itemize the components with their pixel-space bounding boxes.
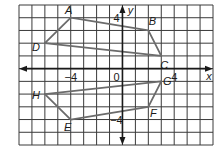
y-axis-arrow-up-icon — [119, 5, 125, 13]
vertex-label-a: A — [64, 4, 72, 16]
vertex-label-f: F — [150, 107, 158, 119]
origin-label: 0 — [113, 71, 119, 83]
vertex-label-c: C — [160, 59, 168, 71]
coordinate-grid-figure: xy−444−40ABCDEFGH — [0, 0, 221, 158]
vertex-label-d: D — [32, 41, 40, 53]
x-tick-label: −4 — [64, 71, 77, 83]
vertex-label-h: H — [32, 89, 40, 101]
polygon-abcd — [45, 18, 161, 56]
y-tick-label: −4 — [110, 114, 123, 126]
x-axis-arrow-left-icon — [19, 66, 27, 72]
vertex-label-e: E — [64, 121, 72, 133]
x-axis-label: x — [205, 70, 212, 82]
y-tick-label: 4 — [113, 12, 119, 24]
vertex-label-b: B — [149, 15, 156, 27]
vertex-label-g: G — [163, 75, 172, 87]
x-tick-label: 4 — [171, 71, 177, 83]
y-axis-arrow-down-icon — [119, 137, 125, 145]
polygon-efgh — [45, 81, 161, 119]
y-axis-label: y — [127, 4, 135, 16]
coordinate-plane: xy−444−40ABCDEFGH — [0, 0, 221, 158]
